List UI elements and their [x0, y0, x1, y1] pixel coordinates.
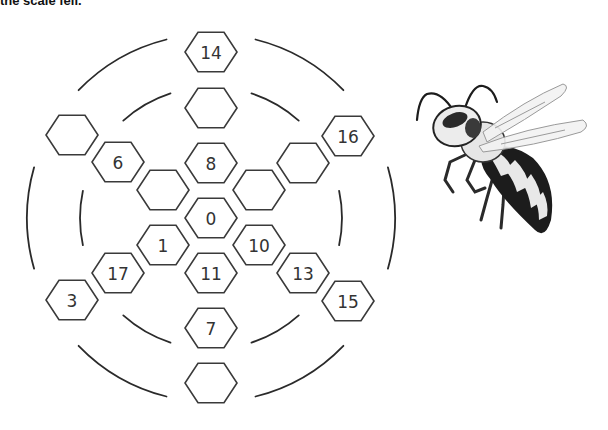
hex-cell[interactable]: 6 — [92, 142, 144, 182]
outer-ring-arc — [27, 167, 34, 268]
hexagon-shape — [277, 143, 329, 183]
hex-cell[interactable]: 14 — [185, 32, 237, 72]
hex-cell[interactable]: 7 — [185, 308, 237, 348]
outer-ring-arc — [256, 40, 344, 91]
hexagon-shape — [46, 115, 98, 155]
inner-ring-arc — [252, 315, 299, 342]
hex-cell[interactable] — [185, 88, 237, 128]
hex-number: 0 — [206, 209, 217, 229]
hex-cell[interactable] — [277, 143, 329, 183]
hex-number: 16 — [337, 127, 359, 147]
hex-number: 14 — [200, 43, 222, 63]
outer-ring-arc — [256, 346, 344, 397]
hex-cell[interactable] — [137, 170, 189, 210]
wasp-wings-icon — [479, 84, 587, 152]
hex-cell[interactable]: 8 — [185, 143, 237, 183]
hex-cell[interactable]: 3 — [46, 280, 98, 320]
hex-number: 15 — [337, 292, 359, 312]
hex-number: 6 — [113, 153, 124, 173]
outer-ring-arc — [79, 346, 167, 397]
inner-ring-arc — [123, 315, 170, 342]
hexagon-shape — [137, 170, 189, 210]
hex-number: 3 — [67, 291, 78, 311]
hexagon-shape — [185, 363, 237, 403]
hex-cell[interactable]: 10 — [233, 225, 285, 265]
hex-cell[interactable]: 16 — [322, 116, 374, 156]
wasp-illustration — [405, 80, 595, 240]
hex-number: 1 — [158, 236, 169, 256]
hex-cell[interactable] — [185, 363, 237, 403]
hex-cell[interactable]: 15 — [322, 281, 374, 321]
hex-cell[interactable]: 17 — [92, 253, 144, 293]
hex-cell[interactable]: 11 — [185, 253, 237, 293]
hex-number: 11 — [200, 264, 222, 284]
hexagon-shape — [233, 170, 285, 210]
hex-number: 17 — [107, 264, 129, 284]
hex-number: 13 — [292, 264, 314, 284]
hex-cell[interactable] — [233, 170, 285, 210]
outer-ring-arc — [388, 167, 395, 268]
inner-ring-arc — [252, 93, 299, 120]
hex-cell[interactable]: 1 — [137, 225, 189, 265]
hex-number: 8 — [206, 154, 217, 174]
outer-ring-arc — [79, 40, 167, 91]
hex-number: 7 — [206, 319, 217, 339]
hex-cell[interactable]: 13 — [277, 253, 329, 293]
hexagon-shape — [185, 88, 237, 128]
hex-number: 10 — [248, 236, 270, 256]
hex-cell[interactable] — [46, 115, 98, 155]
inner-ring-arc — [339, 191, 342, 245]
inner-ring-arc — [123, 93, 170, 120]
hex-cell[interactable]: 0 — [185, 198, 237, 238]
inner-ring-arc — [80, 191, 83, 245]
